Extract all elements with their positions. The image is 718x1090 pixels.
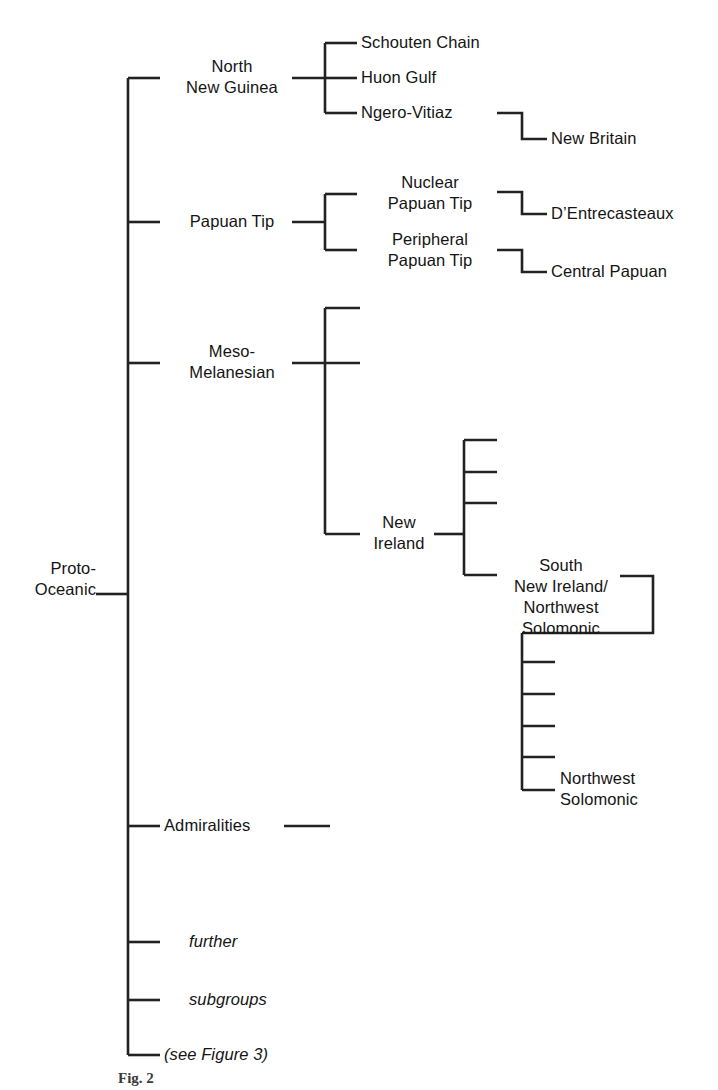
- node-label-huon-gulf: Huon Gulf: [361, 67, 436, 88]
- node-label-subgroups: subgroups: [189, 989, 267, 1010]
- node-label-north-new-guinea: North New Guinea: [162, 56, 302, 98]
- node-label-meso-melanesian: Meso- Melanesian: [162, 341, 302, 383]
- tree-line-graphics: [0, 0, 718, 1090]
- node-label-new-britain: New Britain: [551, 128, 636, 149]
- node-label-see-figure-3: (see Figure 3): [164, 1044, 268, 1065]
- node-label-dentrecasteaux: D’Entrecasteaux: [551, 203, 674, 224]
- language-family-tree-figure: Proto- Oceanic North New Guinea Schouten…: [0, 0, 718, 1090]
- node-label-papuan-tip: Papuan Tip: [162, 211, 302, 232]
- node-label-south-new-ireland-northwest-solomonic: South New Ireland/ Northwest Solomonic: [500, 555, 622, 639]
- node-label-schouten-chain: Schouten Chain: [361, 32, 480, 53]
- node-label-peripheral-papuan-tip: Peripheral Papuan Tip: [360, 229, 500, 271]
- peripheral-to-central-papuan: [497, 250, 547, 272]
- node-label-new-ireland: New Ireland: [364, 512, 434, 554]
- node-label-admiralities: Admiralities: [164, 815, 250, 836]
- node-label-nuclear-papuan-tip: Nuclear Papuan Tip: [360, 172, 500, 214]
- node-label-central-papuan: Central Papuan: [551, 261, 667, 282]
- node-label-ngero-vitiaz: Ngero-Vitiaz: [361, 102, 453, 123]
- figure-caption: Fig. 2: [118, 1070, 718, 1087]
- ngero-vitiaz-to-new-britain: [497, 113, 547, 139]
- node-label-further: further: [189, 931, 237, 952]
- nuclear-to-dentrecasteaux: [497, 192, 547, 214]
- node-label-northwest-solomonic: Northwest Solomonic: [560, 768, 638, 810]
- node-label-proto-oceanic: Proto- Oceanic: [0, 558, 102, 600]
